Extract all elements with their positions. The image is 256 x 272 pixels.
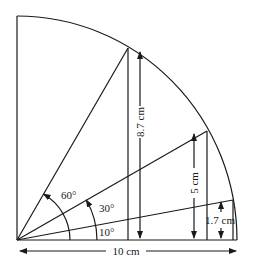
radius-10 bbox=[17, 200, 233, 240]
quarter-circle-diagram: 60° 30° 10° 8.7 cm 5 cm 1.7 cm 10 cm bbox=[0, 0, 256, 272]
height-label-60: 8.7 cm bbox=[134, 107, 146, 137]
angle-label-60: 60° bbox=[61, 189, 76, 201]
angle-arc-30 bbox=[86, 200, 97, 240]
diagram-svg: 60° 30° 10° 8.7 cm 5 cm 1.7 cm 10 cm bbox=[0, 0, 256, 272]
angle-label-30: 30° bbox=[99, 202, 114, 214]
radius-label: 10 cm bbox=[112, 245, 140, 257]
radius-30 bbox=[17, 131, 207, 240]
height-label-10: 1.7 cm bbox=[205, 214, 235, 226]
height-label-30: 5 cm bbox=[188, 172, 200, 194]
angle-label-10: 10° bbox=[99, 226, 114, 238]
